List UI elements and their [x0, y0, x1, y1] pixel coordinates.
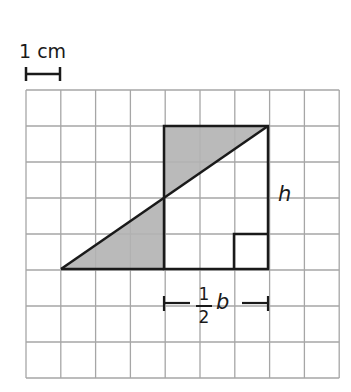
scale-bar: [26, 67, 60, 81]
height-label: h: [278, 182, 291, 206]
right-angle-marker: [234, 234, 268, 269]
geometry-diagram: [0, 0, 351, 392]
base-label: b: [216, 290, 229, 314]
fraction-numerator: 1: [199, 284, 210, 304]
fraction-denominator: 2: [199, 307, 210, 327]
half-fraction: 1 2: [193, 286, 215, 326]
